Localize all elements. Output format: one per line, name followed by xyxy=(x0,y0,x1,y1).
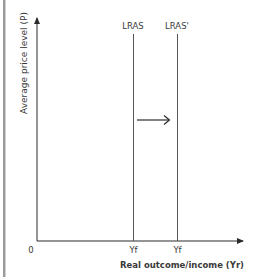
origin-label: 0 xyxy=(28,245,33,255)
shift-arrow-icon xyxy=(137,116,170,125)
lras-chart: Average price level (P) LRAS LRAS' 0 Yf … xyxy=(0,0,259,277)
x-tick-yf-1: Yf xyxy=(128,245,138,255)
x-tick-yf-2: Yf xyxy=(172,245,182,255)
lras-prime-label: LRAS' xyxy=(165,21,189,31)
y-axis-label: Average price level (P) xyxy=(19,12,29,114)
x-axis-label: Real outcome/income (Yr) xyxy=(120,260,244,270)
lras-label: LRAS xyxy=(122,21,144,31)
